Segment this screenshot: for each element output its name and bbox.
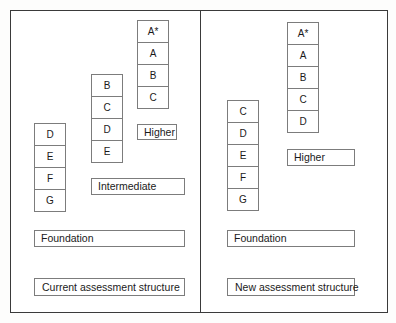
current-higher-grade-column: A* A B C [137,20,169,109]
grade-cell: C [91,96,123,119]
grade-cell: C [137,86,169,109]
grade-cell: B [287,66,319,89]
new-structure-panel: A* A B C D Higher C D E F G Foundation N… [200,10,388,313]
current-higher-tier-label: Higher [137,124,177,140]
grade-cell: E [91,140,123,163]
grade-cell: A* [137,20,169,43]
grade-cell: A [287,44,319,67]
current-structure-caption: Current assessment structure [34,278,185,296]
grade-cell: A [137,42,169,65]
grade-cell: F [34,167,66,190]
current-intermediate-grade-column: B C D E [91,74,123,163]
current-foundation-tier-label: Foundation [34,230,185,247]
new-structure-caption: New assessment structure [227,278,355,296]
grade-cell: C [287,88,319,111]
grade-cell: D [287,110,319,133]
current-foundation-grade-column: D E F G [34,123,66,212]
grade-cell: E [227,144,259,167]
assessment-structure-diagram: A* A B C Higher B C D E Intermediate D E… [0,0,396,323]
new-foundation-grade-column: C D E F G [227,100,259,211]
grade-cell: E [34,145,66,168]
new-higher-tier-label: Higher [287,149,355,166]
current-intermediate-tier-label: Intermediate [91,178,185,195]
grade-cell: G [227,188,259,211]
grade-cell: D [91,118,123,141]
grade-cell: A* [287,22,319,45]
grade-cell: G [34,189,66,212]
grade-cell: D [227,122,259,145]
new-higher-grade-column: A* A B C D [287,22,319,133]
grade-cell: C [227,100,259,123]
grade-cell: D [34,123,66,146]
grade-cell: B [137,64,169,87]
grade-cell: F [227,166,259,189]
new-foundation-tier-label: Foundation [227,230,355,247]
current-structure-panel: A* A B C Higher B C D E Intermediate D E… [10,10,201,313]
grade-cell: B [91,74,123,97]
